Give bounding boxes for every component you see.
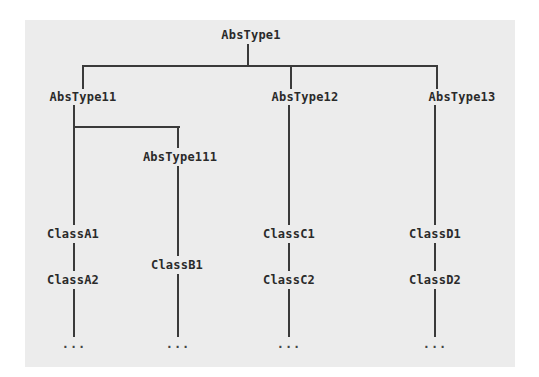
node-abstype111: AbsType111 bbox=[143, 150, 217, 164]
ellipsis-a: ... bbox=[62, 337, 87, 351]
node-abstype1: AbsType1 bbox=[221, 28, 280, 42]
connector-abstype111-stem bbox=[177, 126, 179, 148]
connector-c2-more bbox=[288, 289, 290, 337]
connector-abstype11-stem bbox=[82, 65, 84, 89]
connector-abstype12-stem bbox=[290, 65, 292, 89]
node-classc2: ClassC2 bbox=[263, 273, 315, 287]
connector-abstype11-down bbox=[73, 105, 75, 225]
connector-abstype13-down bbox=[434, 105, 436, 225]
node-classa2: ClassA2 bbox=[47, 273, 99, 287]
ellipsis-b: ... bbox=[166, 337, 191, 351]
ellipsis-d: ... bbox=[423, 337, 448, 351]
connector-abstype111-down bbox=[177, 166, 179, 256]
node-classa1: ClassA1 bbox=[47, 227, 99, 241]
diagram-background bbox=[25, 20, 515, 367]
connector-abstype12-down bbox=[288, 105, 290, 225]
node-classc1: ClassC1 bbox=[263, 227, 315, 241]
connector-a2-more bbox=[73, 289, 75, 337]
node-abstype12: AbsType12 bbox=[272, 90, 339, 104]
connector-a1-a2 bbox=[73, 243, 75, 271]
connector-c1-c2 bbox=[288, 243, 290, 271]
connector-level1-bar bbox=[82, 65, 438, 67]
connector-root-stem bbox=[247, 44, 249, 67]
connector-abstype13-stem bbox=[436, 65, 438, 89]
ellipsis-c: ... bbox=[277, 337, 302, 351]
node-abstype13: AbsType13 bbox=[429, 90, 496, 104]
connector-d1-d2 bbox=[434, 243, 436, 271]
node-abstype11: AbsType11 bbox=[50, 90, 117, 104]
connector-level2-bar bbox=[73, 126, 180, 128]
connector-b1-more bbox=[177, 274, 179, 337]
node-classd1: ClassD1 bbox=[409, 227, 461, 241]
node-classd2: ClassD2 bbox=[409, 273, 461, 287]
connector-d2-more bbox=[434, 289, 436, 337]
node-classb1: ClassB1 bbox=[151, 258, 203, 272]
